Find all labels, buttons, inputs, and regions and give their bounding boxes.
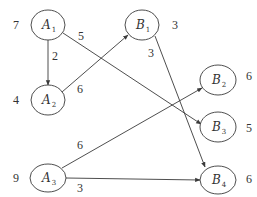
node-a2: A24 — [13, 85, 65, 115]
edge-b1-b4: 3 — [148, 36, 205, 167]
node-weight-label: 3 — [172, 18, 178, 32]
edge-arrow — [66, 178, 200, 180]
node-weight-label: 9 — [13, 171, 19, 185]
node-weight-label: 4 — [13, 93, 19, 107]
node-weight-label: 5 — [246, 121, 252, 135]
edge-weight-label: 3 — [148, 46, 154, 60]
edge-a2-b1: 6 — [62, 35, 128, 96]
edge-a3-b2: 6 — [62, 88, 202, 168]
edge-arrow — [62, 88, 202, 168]
nodes-layer: A17A24A39B13B26B35B46 — [13, 10, 252, 194]
node-a1: A17 — [13, 10, 65, 40]
node-weight-label: 7 — [13, 18, 19, 32]
edge-a1-a2: 2 — [48, 40, 58, 85]
node-a3: A39 — [13, 164, 66, 192]
edges-layer: 256363 — [48, 29, 205, 195]
node-b2: B26 — [200, 65, 252, 95]
node-weight-label: 6 — [246, 69, 252, 83]
edge-weight-label: 3 — [77, 181, 83, 195]
edge-arrow — [155, 36, 205, 167]
network-diagram: 256363 A17A24A39B13B26B35B46 — [0, 0, 257, 197]
edge-weight-label: 6 — [77, 82, 83, 96]
node-b3: B35 — [200, 112, 252, 142]
edge-a1-b3: 5 — [63, 29, 201, 124]
node-b1: B13 — [125, 10, 178, 40]
edge-weight-label: 6 — [77, 138, 83, 152]
edge-a3-b4: 3 — [66, 178, 200, 195]
node-b4: B46 — [200, 166, 252, 194]
node-weight-label: 6 — [246, 172, 252, 186]
edge-arrow — [63, 33, 201, 124]
edge-weight-label: 5 — [78, 29, 84, 43]
edge-arrow — [62, 35, 128, 92]
edge-weight-label: 2 — [52, 49, 58, 63]
